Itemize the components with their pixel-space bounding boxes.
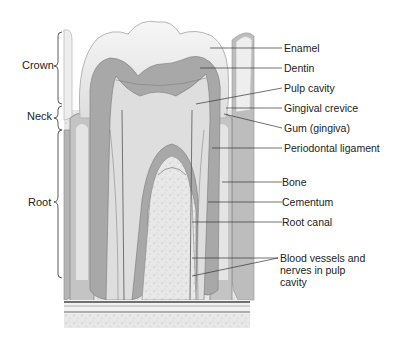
label-blood-vessels: Blood vessels and nerves in pulp cavity [280, 252, 365, 288]
region-label-crown: Crown [22, 59, 54, 71]
label-blood-vessels-line1: Blood vessels and [280, 252, 365, 264]
region-label-root: Root [28, 196, 51, 208]
label-gum: Gum (gingiva) [284, 122, 350, 134]
region-braces [54, 32, 62, 278]
label-pulp-cavity: Pulp cavity [284, 82, 335, 94]
label-periodontal-ligament: Periodontal ligament [284, 142, 380, 154]
label-enamel: Enamel [284, 42, 320, 54]
label-root-canal: Root canal [282, 216, 332, 228]
label-gingival-crevice: Gingival crevice [284, 102, 358, 114]
adjacent-tooth-right [232, 33, 254, 300]
label-dentin: Dentin [284, 62, 314, 74]
label-blood-vessels-line2: nerves in pulp [280, 264, 365, 276]
tooth-illustration [0, 0, 398, 343]
blood-vessel-bands [64, 300, 250, 314]
label-cementum: Cementum [282, 196, 333, 208]
label-blood-vessels-line3: cavity [280, 276, 365, 288]
region-label-neck: Neck [27, 110, 52, 122]
label-bone: Bone [282, 176, 307, 188]
